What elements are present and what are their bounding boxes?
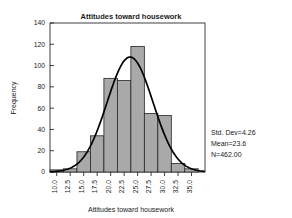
histogram-figure: Attitudes toward housework 0204060801001… xyxy=(0,0,292,218)
bar-series xyxy=(50,46,198,172)
x-axis-tick-labels: 10.012.515.017.520.022.525.027.530.032.5… xyxy=(51,180,193,193)
x-tick-label: 22.5 xyxy=(118,180,125,193)
x-axis-label: Attitudes toward housework xyxy=(88,206,174,213)
y-axis-label: Frequency xyxy=(10,81,18,115)
chart-title: Attitudes toward housework xyxy=(81,12,183,21)
x-tick-label: 12.5 xyxy=(64,180,71,193)
statistics-box: Std. Dev=4.26 Mean=23.6 N=462.00 xyxy=(211,129,256,158)
y-tick-label: 120 xyxy=(34,41,46,48)
x-tick-label: 17.5 xyxy=(91,180,98,193)
histogram-bar xyxy=(131,46,144,172)
y-tick-label: 140 xyxy=(34,19,46,26)
x-tick-label: 35.0 xyxy=(186,180,193,193)
y-tick-label: 40 xyxy=(37,126,45,133)
x-tick-label: 32.5 xyxy=(172,180,179,193)
mean-text: Mean=23.6 xyxy=(211,140,246,147)
x-tick-label: 30.0 xyxy=(159,180,166,193)
y-tick-label: 60 xyxy=(37,105,45,112)
x-axis-ticks xyxy=(57,172,192,176)
x-tick-label: 27.5 xyxy=(145,180,152,193)
std-dev-text: Std. Dev=4.26 xyxy=(211,129,256,136)
x-tick-label: 25.0 xyxy=(132,180,139,193)
histogram-bar xyxy=(144,113,157,172)
y-axis-ticks xyxy=(50,23,54,172)
n-text: N=462.00 xyxy=(211,151,242,158)
x-tick-label: 10.0 xyxy=(51,180,58,193)
y-axis-tick-labels: 020406080100120140 xyxy=(34,19,46,175)
y-tick-label: 100 xyxy=(34,62,46,69)
x-tick-label: 20.0 xyxy=(105,180,112,193)
x-tick-label: 15.0 xyxy=(78,180,85,193)
y-tick-label: 20 xyxy=(37,147,45,154)
y-tick-label: 80 xyxy=(37,83,45,90)
y-tick-label: 0 xyxy=(41,168,45,175)
histogram-bar xyxy=(117,80,130,172)
